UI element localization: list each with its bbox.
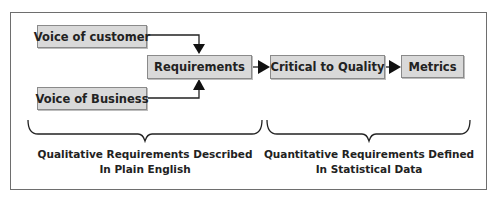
requirements-label: Requirements <box>154 60 245 74</box>
arrowhead-down-icon <box>193 44 205 54</box>
arrowhead-right-icon <box>258 60 270 74</box>
arrow-customer-to-requirements <box>147 35 199 44</box>
metrics-label: Metrics <box>408 60 456 74</box>
requirements-box: Requirements <box>147 55 252 79</box>
right-caption: Quantitative Requirements Defined In Sta… <box>262 147 476 177</box>
left-caption-line1: Qualitative Requirements Described <box>28 147 262 162</box>
left-caption-line2: In Plain English <box>28 162 262 177</box>
arrowhead-up-icon <box>193 79 205 90</box>
right-caption-line1: Quantitative Requirements Defined <box>262 147 476 162</box>
voice-of-business-label: Voice of Business <box>35 92 148 106</box>
right-caption-line2: In Statistical Data <box>262 162 476 177</box>
voice-of-business-box: Voice of Business <box>37 87 147 110</box>
voice-of-customer-box: Voice of customer <box>37 25 147 48</box>
left-caption: Qualitative Requirements Described In Pl… <box>28 147 262 177</box>
critical-to-quality-box: Critical to Quality <box>270 55 385 79</box>
arrow-business-to-requirements <box>147 90 199 98</box>
voice-of-customer-label: Voice of customer <box>34 30 150 44</box>
left-brace <box>28 120 262 141</box>
metrics-box: Metrics <box>401 55 464 78</box>
critical-to-quality-label: Critical to Quality <box>270 60 384 74</box>
right-brace <box>267 120 470 141</box>
arrowhead-right-icon <box>389 60 401 74</box>
